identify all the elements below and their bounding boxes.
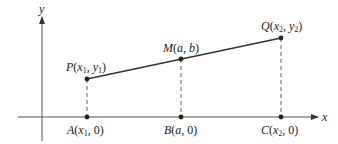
label-b: B(a, 0) <box>164 124 197 136</box>
label-a: A(x1, 0) <box>67 124 104 138</box>
point-m <box>179 57 184 62</box>
point-a <box>85 115 90 120</box>
midpoint-diagram: y x P(x1, y1) M(a, b) Q(x2, y2) A(x1, 0)… <box>0 0 338 144</box>
point-p <box>85 77 90 82</box>
point-b <box>179 115 184 120</box>
label-c: C(x2, 0) <box>261 124 298 138</box>
x-axis-label: x <box>322 111 327 123</box>
y-axis-label: y <box>39 3 44 15</box>
label-p: P(x1, y1) <box>66 61 106 75</box>
point-c <box>279 115 284 120</box>
label-m: M(a, b) <box>163 42 199 54</box>
label-q: Q(x2, y2) <box>261 20 302 34</box>
point-q <box>279 36 284 41</box>
